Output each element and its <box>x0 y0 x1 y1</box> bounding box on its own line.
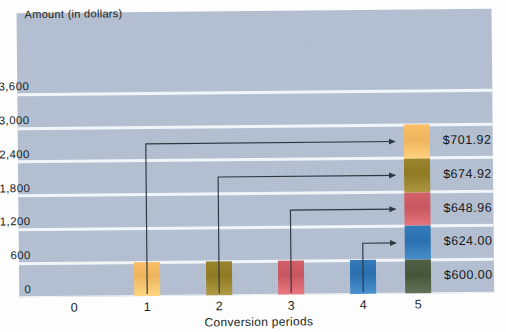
x-tick-2: 2 <box>204 299 234 313</box>
y-tick-1800: 1,800 <box>0 182 30 195</box>
y-tick-0: 0 <box>0 283 31 296</box>
annotation-arrows <box>17 9 495 298</box>
y-tick-3000: 3,000 <box>0 114 30 127</box>
y-tick-1200: 1,200 <box>0 216 31 229</box>
arrow-period-2-to-band-4 <box>218 175 396 293</box>
x-axis-tick-labels: 012345 <box>0 0 504 2</box>
y-tick-600: 600 <box>0 249 31 262</box>
x-tick-0: 0 <box>59 301 89 315</box>
arrow-period-4-to-band-2 <box>363 243 396 292</box>
y-axis-title: Amount (in dollars) <box>24 7 122 20</box>
x-tick-3: 3 <box>276 298 306 312</box>
x-tick-5: 5 <box>403 297 433 311</box>
x-tick-1: 1 <box>132 300 162 314</box>
x-axis-title: Conversion periods <box>204 314 313 329</box>
y-axis-tick-labels: 06001,2001,8002,4003,0003,600 <box>0 0 504 2</box>
figure-inner: $600.00$624.00$648.96$674.92$701.92 0600… <box>0 0 506 332</box>
arrow-period-1-to-band-5 <box>146 142 396 294</box>
chart-figure: $600.00$624.00$648.96$674.92$701.92 0600… <box>0 0 506 332</box>
y-tick-2400: 2,400 <box>0 148 30 161</box>
y-tick-3600: 3,600 <box>0 80 29 93</box>
arrow-period-3-to-band-3 <box>290 209 396 293</box>
x-tick-4: 4 <box>348 298 378 312</box>
